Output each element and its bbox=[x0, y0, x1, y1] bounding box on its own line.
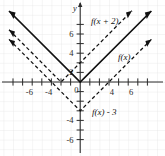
y-tick-label-6: 6 bbox=[69, 29, 73, 39]
x-tick-label-6: 6 bbox=[129, 87, 133, 97]
y-tick-label-neg4: -4 bbox=[67, 115, 75, 125]
y-axis-label: y bbox=[72, 3, 77, 13]
label-f-of-x-minus-3: f(x) - 3 bbox=[92, 107, 117, 117]
y-tick-label-4: 4 bbox=[69, 48, 74, 58]
grid-lines bbox=[0, 0, 165, 156]
x-tick-label-neg6: -6 bbox=[26, 87, 33, 97]
label-f-of-x-plus-2: f(x + 2) bbox=[91, 16, 119, 26]
y-tick-label-neg6: -6 bbox=[67, 135, 74, 145]
coordinate-plane: -6 -4 4 6 6 4 2 -4 -6 0 y bbox=[0, 0, 165, 156]
figure-container: 5. bbox=[0, 0, 165, 156]
origin-label: 0 bbox=[74, 85, 78, 95]
x-tick-label-neg4: -4 bbox=[45, 87, 53, 97]
label-f-of-x: f(x) bbox=[118, 52, 131, 62]
x-tick-label-4: 4 bbox=[110, 87, 115, 97]
